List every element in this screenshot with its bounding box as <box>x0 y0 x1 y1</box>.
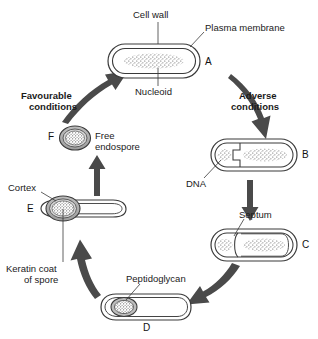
label-favourable-conditions-line1: Favourable <box>21 90 72 101</box>
stage-a-cell <box>108 44 200 78</box>
label-septum: Septum <box>239 209 272 220</box>
stage-label-e: E <box>27 203 34 214</box>
arrow-c-to-d <box>187 263 241 305</box>
arrow-e-to-f <box>89 155 106 196</box>
label-favourable-conditions-line2: conditions <box>29 101 77 112</box>
label-plasma-membrane: Plasma membrane <box>205 22 285 33</box>
nucleoid-a <box>124 54 184 69</box>
dna-large-c <box>243 239 285 252</box>
label-adverse-conditions-line2: conditions <box>231 101 279 112</box>
arrow-f-to-a <box>62 71 128 124</box>
dna-small-c <box>218 239 233 251</box>
label-cell-wall: Cell wall <box>133 9 168 20</box>
mother-cell-tail-e <box>74 204 122 214</box>
stage-b-cell <box>211 139 297 171</box>
stage-label-a: A <box>205 56 212 67</box>
diagram-canvas <box>0 0 318 339</box>
leader-cortex <box>41 192 56 201</box>
dna-large-b <box>243 149 287 162</box>
dna-small-b <box>218 149 232 161</box>
endospore-core-f <box>66 131 85 145</box>
label-adverse-conditions-line1: Adverse <box>239 90 277 101</box>
label-free-endospore-line2: endospore <box>95 141 140 152</box>
arrow-d-to-e <box>71 240 102 300</box>
label-keratin-coat-line2: of spore <box>24 274 58 285</box>
forespore-core-d <box>115 300 134 313</box>
endospore-cycle-figure: Cell wall Plasma membrane Nucleoid Favou… <box>0 0 318 339</box>
stage-c-cell <box>211 229 297 261</box>
label-dna: DNA <box>186 178 206 189</box>
label-free-endospore-line1: Free <box>95 130 115 141</box>
stage-d-cell <box>101 294 191 320</box>
stage-f-endospore <box>60 126 91 150</box>
label-nucleoid: Nucleoid <box>135 86 172 97</box>
stage-label-b: B <box>302 149 309 160</box>
label-peptidoglycan: Peptidoglycan <box>126 273 186 284</box>
stage-label-f: F <box>48 131 54 142</box>
leader-plasma-membrane <box>190 32 204 47</box>
label-cortex: Cortex <box>8 182 36 193</box>
stage-label-d: D <box>143 322 150 333</box>
stage-label-c: C <box>302 239 309 250</box>
label-keratin-coat-line1: Keratin coat <box>6 263 57 274</box>
